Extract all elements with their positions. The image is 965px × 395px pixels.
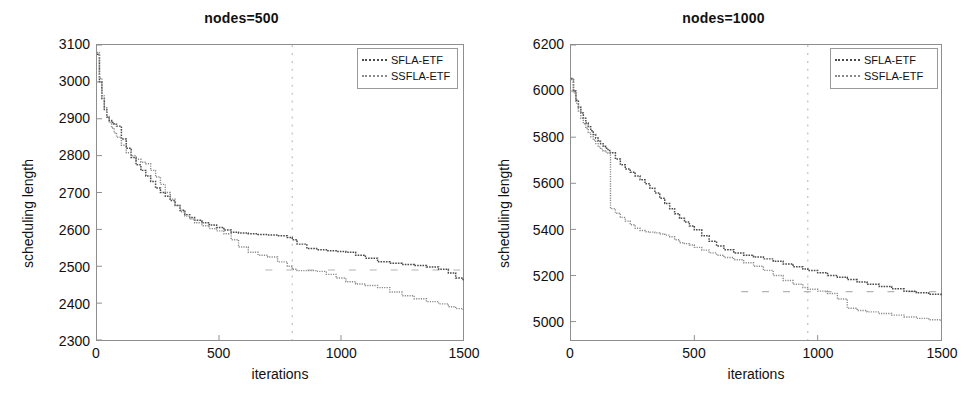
y-tick-label: 6200 [508,36,564,52]
legend-label-sfla: SFLA-ETF [864,55,916,66]
y-tick-label: 2300 [36,333,90,349]
series-line-ssfla-etf [97,52,463,309]
plot-svg [571,45,941,340]
y-tick-label: 3000 [36,73,90,89]
legend-line-ssfla-icon [362,75,387,77]
legend-label-sfla: SFLA-ETF [391,55,443,66]
x-tick-label: 0 [92,345,100,361]
chart-panel-nodes-500: nodes=500 scheduling length iterations 2… [0,0,483,395]
y-tick-label: 2700 [36,185,90,201]
legend-label-ssfla: SSFLA-ETF [391,71,450,82]
plot-svg [97,45,463,340]
x-tick-label: 0 [566,345,574,361]
x-tick-label: 1000 [326,345,357,361]
chart-title: nodes=1000 [482,10,965,26]
legend-line-sfla-icon [362,59,387,61]
legend-item-sfla: SFLA-ETF [835,52,932,68]
figure-container: nodes=500 scheduling length iterations 2… [0,0,965,395]
x-tick-label: 1500 [448,345,479,361]
y-tick-label: 2400 [36,296,90,312]
y-tick-label: 5600 [508,175,564,191]
y-tick-label: 5000 [508,314,564,330]
chart-title: nodes=500 [0,10,483,26]
y-tick-label: 2600 [36,222,90,238]
series-line-ssfla-etf [571,80,941,322]
x-axis-label: iterations [570,366,942,382]
legend: SFLA-ETF SSFLA-ETF [357,48,458,89]
y-tick-label: 2500 [36,259,90,275]
x-tick-label: 500 [207,345,230,361]
legend-item-ssfla: SSFLA-ETF [362,68,452,84]
x-tick-label: 1500 [926,345,957,361]
legend-item-ssfla: SSFLA-ETF [835,68,932,84]
x-tick-label: 500 [682,345,705,361]
y-tick-label: 2800 [36,147,90,163]
series-line-sfla-etf [571,78,941,296]
legend-line-sfla-icon [835,59,860,61]
y-tick-label: 5400 [508,222,564,238]
legend: SFLA-ETF SSFLA-ETF [830,48,938,89]
y-tick-label: 6000 [508,82,564,98]
legend-item-sfla: SFLA-ETF [362,52,452,68]
y-tick-label: 3100 [36,36,90,52]
y-axis-label: scheduling length [20,159,36,268]
legend-label-ssfla: SSFLA-ETF [864,71,923,82]
x-tick-label: 1000 [802,345,833,361]
y-tick-label: 5800 [508,129,564,145]
y-tick-label: 5200 [508,268,564,284]
y-tick-label: 2900 [36,110,90,126]
legend-line-ssfla-icon [835,75,860,77]
chart-panel-nodes-1000: nodes=1000 scheduling length iterations … [482,0,965,395]
x-axis-label: iterations [96,366,464,382]
